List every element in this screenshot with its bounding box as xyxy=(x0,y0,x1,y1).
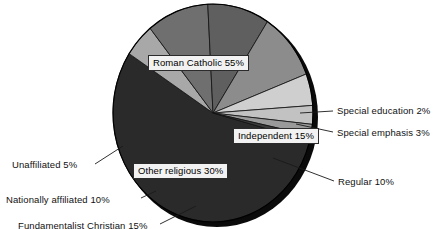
slice-label-regular: Regular 10% xyxy=(338,176,394,187)
leader-unaffiliated xyxy=(95,146,123,164)
slice-label-nationally-affiliated: Nationally affiliated 10% xyxy=(6,194,110,205)
slice-label-fundamentalist-christian: Fundamentalist Christian 15% xyxy=(18,220,148,229)
slice-label-special-education: Special education 2% xyxy=(337,105,430,116)
slice-label-roman-catholic: Roman Catholic 55% xyxy=(148,55,249,71)
pie-chart: Roman Catholic 55% Independent 15% Other… xyxy=(0,0,447,229)
pie-slices xyxy=(113,4,313,222)
slice-label-independent: Independent 15% xyxy=(233,128,319,144)
slice-label-unaffiliated: Unaffiliated 5% xyxy=(12,159,77,170)
slice-label-special-emphasis: Special emphasis 3% xyxy=(337,127,430,138)
slice-label-other-religious: Other religious 30% xyxy=(133,163,228,179)
